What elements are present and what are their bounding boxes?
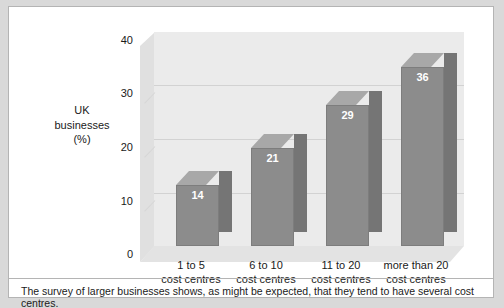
bar-2-top	[251, 134, 294, 148]
figure-caption: The survey of larger businesses shows, a…	[21, 285, 487, 308]
bar-3-value-label: 29	[326, 109, 369, 121]
y-tick-label-40: 40	[107, 34, 133, 46]
y-axis-title-line-1: UK	[47, 103, 117, 118]
bar-3-side	[369, 91, 382, 232]
bar-4-value-label: 36	[401, 71, 444, 83]
x-category-3-line-1: 11 to 20	[298, 258, 384, 272]
x-category-label-2: 6 to 10 cost centres	[223, 258, 309, 286]
bar-1-top	[176, 171, 219, 185]
x-category-3-line-2: cost centres	[298, 272, 384, 286]
y-axis-title-line-2: businesses	[47, 118, 117, 133]
bar-chart: UK businesses (%) 40 30 20 10 0	[9, 7, 493, 277]
plot-area: 14 21 29 36	[140, 32, 464, 262]
bar-3-top	[326, 91, 369, 105]
bar-4-top	[401, 53, 444, 67]
figure-container: UK businesses (%) 40 30 20 10 0	[8, 6, 494, 298]
x-category-1-line-1: 1 to 5	[148, 258, 234, 272]
caption-divider	[9, 278, 493, 279]
bar-1-to-5[interactable]: 14	[176, 171, 219, 246]
x-category-4-line-2: cost centres	[373, 272, 459, 286]
bar-6-to-10[interactable]: 21	[251, 134, 294, 246]
bar-2-side	[294, 134, 307, 232]
y-tick-label-30: 30	[107, 87, 133, 99]
bar-3-front	[326, 105, 369, 246]
bar-2-value-label: 21	[251, 152, 294, 164]
x-category-1-line-2: cost centres	[148, 272, 234, 286]
x-category-label-4: more than 20 cost centres	[373, 258, 459, 286]
y-tick-label-0: 0	[107, 248, 133, 260]
y-tick-label-20: 20	[107, 141, 133, 153]
y-tick-label-10: 10	[107, 195, 133, 207]
bar-1-value-label: 14	[176, 189, 219, 201]
bar-4-front	[401, 67, 444, 246]
bar-more-than-20[interactable]: 36	[401, 53, 444, 246]
x-category-2-line-1: 6 to 10	[223, 258, 309, 272]
x-category-2-line-2: cost centres	[223, 272, 309, 286]
x-category-4-line-1: more than 20	[373, 258, 459, 272]
bar-4-side	[444, 53, 457, 232]
bar-11-to-20[interactable]: 29	[326, 91, 369, 246]
bar-1-side	[219, 171, 232, 232]
x-category-label-3: 11 to 20 cost centres	[298, 258, 384, 286]
x-category-label-1: 1 to 5 cost centres	[148, 258, 234, 286]
y-axis-title: UK businesses (%)	[47, 103, 117, 147]
